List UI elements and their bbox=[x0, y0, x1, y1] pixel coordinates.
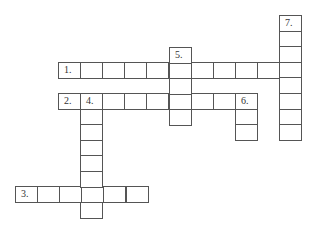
crossword-cell[interactable] bbox=[124, 62, 147, 79]
crossword-cell[interactable] bbox=[257, 62, 280, 79]
clue-number-label: 4. bbox=[86, 95, 94, 107]
crossword-cell[interactable] bbox=[235, 124, 258, 141]
crossword-cell[interactable] bbox=[80, 202, 103, 219]
crossword-cell[interactable] bbox=[124, 93, 147, 110]
crossword-cell[interactable]: 3. bbox=[15, 186, 38, 203]
crossword-cell[interactable] bbox=[191, 62, 214, 79]
crossword-cell[interactable]: 6. bbox=[235, 93, 258, 110]
crossword-cell[interactable]: 2. bbox=[58, 93, 81, 110]
crossword-cell[interactable] bbox=[126, 186, 149, 203]
crossword-cell[interactable] bbox=[146, 93, 169, 110]
crossword-cell[interactable] bbox=[59, 186, 82, 203]
crossword-cell[interactable] bbox=[102, 93, 125, 110]
crossword-cell[interactable]: 1. bbox=[58, 62, 81, 79]
crossword-cell[interactable] bbox=[37, 186, 60, 203]
crossword-cell[interactable] bbox=[279, 46, 302, 63]
crossword-cell[interactable]: 4. bbox=[80, 93, 103, 110]
clue-number-label: 1. bbox=[64, 64, 72, 76]
crossword-cell[interactable] bbox=[279, 124, 302, 141]
crossword-cell[interactable] bbox=[169, 62, 192, 79]
crossword-cell[interactable] bbox=[169, 78, 192, 95]
crossword-cell[interactable] bbox=[80, 62, 103, 79]
crossword-cell[interactable] bbox=[81, 186, 104, 203]
crossword-cell[interactable] bbox=[235, 62, 258, 79]
crossword-cell[interactable] bbox=[80, 124, 103, 141]
clue-number-label: 5. bbox=[175, 49, 183, 61]
crossword-cell[interactable] bbox=[80, 171, 103, 188]
crossword-cell[interactable]: 7. bbox=[279, 15, 302, 32]
clue-number-label: 3. bbox=[21, 188, 29, 200]
crossword-cell[interactable] bbox=[213, 62, 236, 79]
crossword-cell[interactable] bbox=[169, 93, 192, 110]
crossword-cell[interactable] bbox=[103, 186, 126, 203]
crossword-cell[interactable] bbox=[191, 93, 214, 110]
crossword-cell[interactable] bbox=[146, 62, 169, 79]
crossword-cell[interactable] bbox=[213, 93, 236, 110]
clue-number-label: 6. bbox=[241, 95, 249, 107]
clue-number-label: 7. bbox=[285, 17, 293, 29]
crossword-cell[interactable] bbox=[102, 62, 125, 79]
crossword-grid: 1.2.4.6.3.5.7. bbox=[0, 0, 314, 229]
crossword-cell[interactable] bbox=[279, 93, 302, 110]
crossword-cell[interactable] bbox=[279, 77, 302, 94]
clue-number-label: 2. bbox=[64, 95, 72, 107]
crossword-cell[interactable] bbox=[169, 109, 192, 126]
crossword-cell[interactable]: 5. bbox=[169, 47, 192, 64]
crossword-cell[interactable] bbox=[80, 155, 103, 172]
